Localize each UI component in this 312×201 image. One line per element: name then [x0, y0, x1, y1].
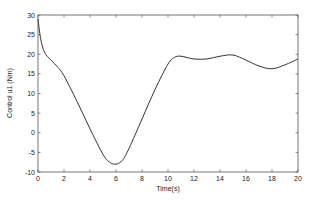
- y-tick-label: 5: [31, 110, 35, 117]
- x-tick-label: 4: [88, 175, 92, 182]
- y-tick-label: 10: [27, 90, 35, 97]
- x-tick-label: 6: [114, 175, 118, 182]
- x-tick-label: 2: [62, 175, 66, 182]
- x-tick-label: 20: [294, 175, 302, 182]
- x-tick-label: 14: [216, 175, 224, 182]
- x-axis-label: Time(s): [156, 185, 179, 193]
- x-tick-label: 10: [164, 175, 172, 182]
- y-tick-label: 0: [31, 129, 35, 136]
- x-tick-label: 8: [140, 175, 144, 182]
- y-tick-label: 25: [27, 31, 35, 38]
- y-tick-label: 20: [27, 51, 35, 58]
- y-tick-label: 30: [27, 12, 35, 19]
- y-tick-label: -10: [25, 169, 35, 176]
- y-axis-label: Control u1 (Nm): [6, 68, 14, 118]
- x-tick-label: 16: [242, 175, 250, 182]
- x-tick-label: 0: [36, 175, 40, 182]
- y-tick-label: 15: [27, 70, 35, 77]
- x-tick-label: 12: [190, 175, 198, 182]
- line-chart: 02468101214161820 -10-5051015202530 Time…: [0, 0, 312, 201]
- y-tick-label: -5: [29, 149, 35, 156]
- x-tick-label: 18: [268, 175, 276, 182]
- plot-area: [38, 15, 298, 172]
